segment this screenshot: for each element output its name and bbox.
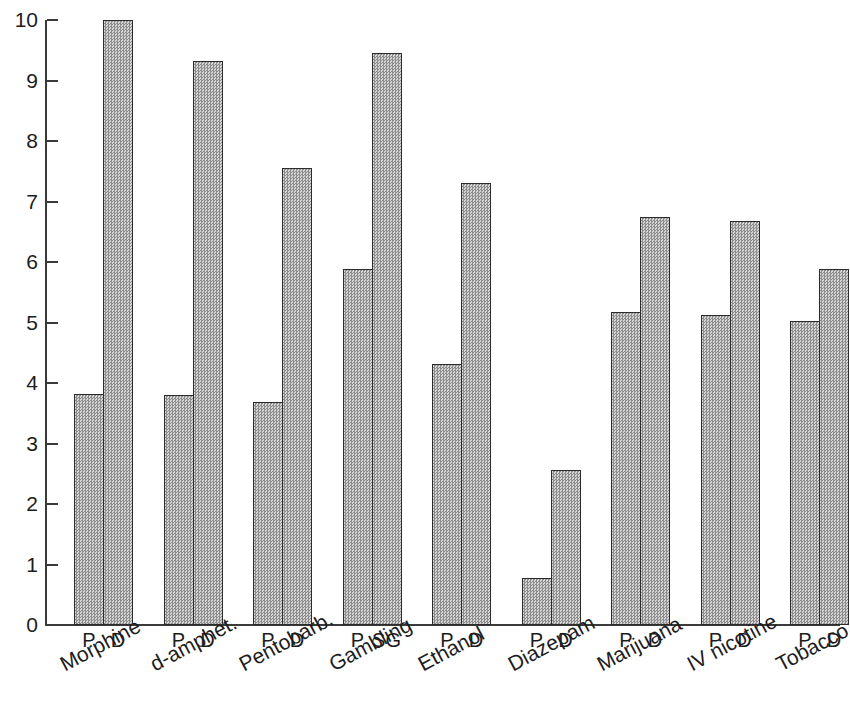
bar-group [432, 20, 491, 625]
bar [343, 269, 373, 625]
bar [282, 168, 312, 625]
bar-group [74, 20, 133, 625]
y-tick-label-2: 2 [8, 493, 38, 514]
bar [611, 312, 641, 625]
y-tick-label-5: 5 [8, 312, 38, 333]
bar [461, 183, 491, 625]
bar [730, 221, 760, 625]
bar [164, 395, 194, 625]
bar-group [164, 20, 223, 625]
bar-group [522, 20, 581, 625]
y-axis-tick-labels: 012345678910 [0, 0, 38, 716]
category-labels: Morphined-amphet.Pentobarb.GamblingEthan… [45, 655, 850, 716]
bar [372, 53, 402, 625]
bar [74, 394, 104, 625]
bar [522, 578, 552, 625]
bar [253, 402, 283, 625]
bar [701, 315, 731, 625]
bar [819, 269, 849, 625]
plot-area [45, 20, 840, 625]
y-tick-label-7: 7 [8, 191, 38, 212]
y-tick-label-3: 3 [8, 433, 38, 454]
bar-group [253, 20, 312, 625]
bar-group [343, 20, 402, 625]
y-tick-label-1: 1 [8, 554, 38, 575]
bar [432, 364, 462, 625]
bar-group [701, 20, 760, 625]
bar [103, 20, 133, 625]
y-tick-label-10: 10 [8, 9, 38, 30]
bar [193, 61, 223, 625]
bar [790, 321, 820, 625]
y-tick-label-9: 9 [8, 70, 38, 91]
y-tick-label-0: 0 [8, 614, 38, 635]
bar-group [790, 20, 849, 625]
bar [640, 217, 670, 625]
y-tick-label-8: 8 [8, 130, 38, 151]
bar-group [611, 20, 670, 625]
bar-chart: 012345678910 PDPDPDPSGPDPDPDPDPD Morphin… [0, 0, 850, 716]
y-tick-label-4: 4 [8, 372, 38, 393]
bar [551, 470, 581, 625]
y-tick-label-6: 6 [8, 251, 38, 272]
